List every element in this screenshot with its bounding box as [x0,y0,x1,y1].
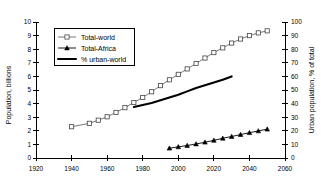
right-tick-label: 10 [291,141,299,148]
data-point-marker [194,61,198,65]
chart-legend: Total-worldTotal-Africa% urban-world [54,28,134,65]
left-axis-ticks: 012345678910 [24,18,39,161]
right-tick-label: 30 [291,114,299,121]
x-tick-label: 1980 [135,165,150,172]
data-point-marker [256,31,260,35]
series-total-africa [167,127,269,150]
left-tick-label: 3 [27,114,31,121]
data-point-marker [238,37,242,41]
series-urban-world [134,76,232,107]
right-tick-label: 70 [291,59,299,66]
left-tick-label: 1 [27,141,31,148]
data-point-marker [203,56,207,60]
left-tick-label: 9 [27,32,31,39]
legend-entry[interactable]: Total-world [58,34,115,41]
right-axis: 0102030405060708090100 Urban population,… [282,18,316,161]
left-tick-label: 6 [27,73,31,80]
left-axis-title: Population, billions [5,65,13,124]
x-tick-label: 1960 [100,165,115,172]
right-tick-label: 20 [291,127,299,134]
right-tick-label: 80 [291,46,299,53]
right-tick-label: 50 [291,86,299,93]
data-point-marker [69,125,73,129]
right-tick-label: 60 [291,73,299,80]
legend-label: Total-Africa [81,45,116,52]
left-tick-label: 8 [27,46,31,53]
legend-label: Total-world [81,34,115,41]
chart-container: 012345678910 Population, billions 010203… [0,0,321,183]
data-point-marker [132,100,136,104]
data-point-marker [265,29,269,33]
left-tick-label: 2 [27,127,31,134]
left-axis: 012345678910 Population, billions [5,18,39,161]
left-tick-label: 0 [27,154,31,161]
population-urbanization-chart: 012345678910 Population, billions 010203… [0,0,321,183]
data-point-marker [185,67,189,71]
data-point-marker [96,118,100,122]
data-point-marker [247,34,251,38]
x-tick-label: 2040 [242,165,257,172]
data-point-marker [176,72,180,76]
right-tick-label: 100 [291,18,302,25]
right-tick-label: 90 [291,32,299,39]
data-point-marker [105,115,109,119]
data-point-marker [114,110,118,114]
data-point-marker [158,84,162,88]
right-tick-label: 40 [291,100,299,107]
x-axis: 19201940196019802000202020402060 [29,155,293,172]
x-tick-label: 2060 [278,165,293,172]
x-tick-label: 1920 [29,165,44,172]
data-point-marker [150,90,154,94]
data-point-marker [230,41,234,45]
left-tick-label: 10 [24,18,32,25]
data-point-marker [265,127,270,131]
data-point-marker [141,95,145,99]
x-tick-label: 2020 [207,165,222,172]
data-point-marker [123,106,127,110]
data-point-marker [212,51,216,55]
x-tick-label: 1940 [64,165,79,172]
right-axis-title: Urban population, % of total [308,46,316,133]
data-point-marker [87,121,91,125]
data-point-marker [221,46,225,50]
data-point-marker [167,78,171,82]
left-tick-label: 4 [27,100,31,107]
right-tick-label: 0 [291,154,295,161]
legend-label: % urban-world [81,56,126,63]
x-tick-label: 2000 [171,165,186,172]
left-tick-label: 7 [27,59,31,66]
left-tick-label: 5 [27,86,31,93]
